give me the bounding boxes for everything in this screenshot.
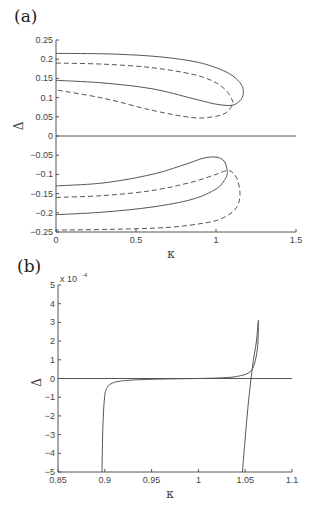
y-tick-label: −4 (45, 448, 55, 458)
figure-canvas: 0.250.20.150.10.050−0.05−0.1−0.15−0.2−0.… (0, 0, 315, 505)
x-tick-label: 1.1 (286, 475, 299, 485)
x-tick-label: 0.95 (143, 475, 161, 485)
y-tick-label: −0.2 (35, 208, 53, 218)
y-tick-label: 0 (48, 131, 53, 141)
series-lower-dashed (56, 170, 240, 230)
x-axis-label: κ (166, 487, 174, 501)
x-axis-label: κ (167, 247, 175, 261)
y-tick-label: −0.15 (30, 189, 53, 199)
y-tick-label: 0 (50, 374, 55, 384)
y-tick-label: 3 (50, 317, 55, 327)
series-lower-solid (56, 157, 227, 215)
x-tick-label: 1 (213, 235, 218, 245)
x-tick-label: 0.9 (99, 475, 112, 485)
series-curve (102, 320, 258, 472)
y-tick-label: 0.05 (35, 112, 53, 122)
y-tick-label: 0.1 (40, 93, 53, 103)
y-tick-label: −2 (45, 411, 55, 421)
y-multiplier-exponent: -4 (82, 272, 88, 278)
series-upper-dashed (56, 63, 233, 118)
y-tick-label: −0.25 (30, 227, 53, 237)
y-tick-label: −0.05 (30, 150, 53, 160)
y-tick-label: 5 (50, 280, 55, 290)
y-tick-label: 0.25 (35, 35, 53, 45)
chart-panel-b: 543210−1−2−3−4−50.850.90.9511.051.1κΔx 1… (30, 272, 298, 501)
y-tick-label: −3 (45, 430, 55, 440)
chart-panel-a: 0.250.20.150.10.050−0.05−0.1−0.15−0.2−0.… (12, 35, 302, 261)
y-axis-label: Δ (12, 121, 26, 130)
y-tick-label: −1 (45, 392, 55, 402)
y-tick-label: 4 (50, 299, 55, 309)
y-tick-label: 0.15 (35, 73, 53, 83)
x-tick-label: 0 (53, 235, 58, 245)
x-tick-label: 0.85 (49, 475, 67, 485)
x-tick-label: 1.5 (290, 235, 303, 245)
series-upper-solid (56, 53, 243, 105)
y-multiplier-label: x 10 (60, 274, 77, 284)
x-tick-label: 0.5 (130, 235, 143, 245)
y-tick-label: 1 (50, 355, 55, 365)
x-tick-label: 1 (196, 475, 201, 485)
y-tick-label: 2 (50, 336, 55, 346)
y-tick-label: 0.2 (40, 54, 53, 64)
y-axis-label: Δ (30, 378, 44, 387)
y-tick-label: −0.1 (35, 169, 53, 179)
x-tick-label: 1.05 (236, 475, 254, 485)
